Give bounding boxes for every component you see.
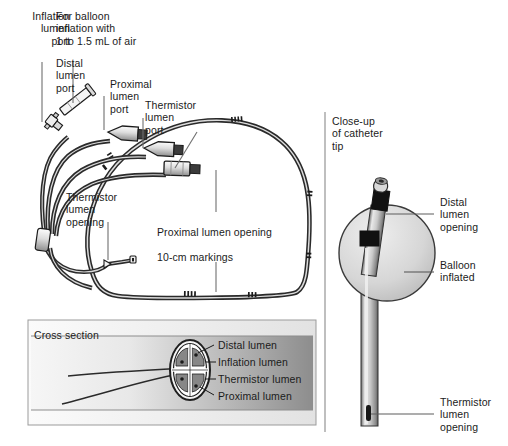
label-distal-lumen: Distal lumen bbox=[218, 339, 314, 351]
label-proximal-lumen-opening: Proximal lumen opening bbox=[157, 226, 287, 238]
label-thermistor-lumen-opening-closeup: Thermistor lumen opening bbox=[440, 396, 508, 433]
catheter-junction-sleeve bbox=[35, 228, 51, 252]
cross-section-lumens bbox=[170, 340, 210, 400]
proximal-lumen-port-hub bbox=[144, 141, 184, 157]
label-balloon-inflated: Balloon inflated bbox=[440, 259, 502, 284]
label-distal-lumen-opening: Distal lumen opening bbox=[440, 196, 506, 233]
label-distal-lumen-port: Distal lumen port bbox=[56, 57, 114, 94]
inflation-lumen-port-hub bbox=[42, 111, 66, 135]
label-thermistor-lumen-port: Thermistor lumen port bbox=[145, 99, 211, 136]
label-thermistor-lumen-opening: Thermistor lumen opening bbox=[66, 191, 136, 228]
label-ten-cm-markings: 10-cm markings bbox=[157, 251, 277, 263]
label-inflation-lumen: Inflation lumen bbox=[218, 356, 314, 368]
label-balloon-inflation-note: For balloon inflation with 1 to 1.5 mL o… bbox=[56, 10, 168, 47]
thermistor-opening-slot bbox=[366, 405, 371, 421]
label-closeup-title: Close-up of catheter tip bbox=[332, 115, 412, 152]
thermistor-lumen-opening-tip bbox=[104, 256, 136, 268]
catheter-figure: Inflation lumen port For balloon inflati… bbox=[0, 0, 508, 446]
label-thermistor-lumen: Thermistor lumen bbox=[218, 373, 318, 385]
label-cross-section-title: Cross section bbox=[34, 329, 144, 341]
label-proximal-lumen: Proximal lumen bbox=[218, 390, 318, 402]
thermistor-lumen-port-hub bbox=[164, 161, 200, 176]
proximal-lumen-opening-port bbox=[102, 164, 107, 170]
distal-lumen-port-hub bbox=[108, 125, 148, 142]
